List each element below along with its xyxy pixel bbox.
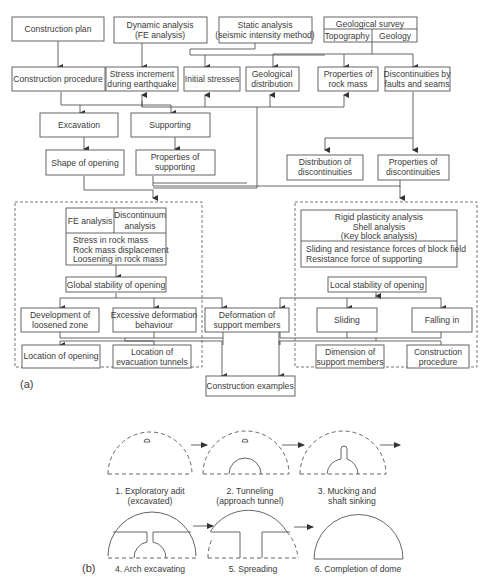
svg-text:Initial stresses: Initial stresses [185,74,239,84]
svg-text:Construction procedure: Construction procedure [13,74,103,84]
svg-text:Loosening in rock mass: Loosening in rock mass [73,254,163,264]
node-right-analysis: Rigid plasticity analysis Shell analysis… [301,210,466,267]
part-a-label: (a) [20,378,33,390]
node-development-loosened: Development of loosened zone [21,308,99,332]
svg-text:(seismic intensity method): (seismic intensity method) [215,30,314,40]
svg-text:Location of: Location of [131,347,174,357]
node-construction-examples: Construction examples [206,376,295,396]
node-stress-increment: Stress increment during earthquake [106,67,178,91]
svg-text:evacuation tunnels: evacuation tunnels [116,357,188,367]
node-sliding: Sliding [317,308,377,332]
node-construction-procedure-2: Construction procedure [407,345,469,368]
node-static-analysis: Static analysis (seismic intensity metho… [215,17,314,43]
step-4-arch-excavating: 4. Arch excavating [108,512,196,574]
node-properties-discontinuities: Properties of discontinuities [378,155,449,180]
node-initial-stresses: Initial stresses [184,67,240,91]
node-deformation-support: Deformation of support members [205,308,289,332]
svg-text:Dimension of: Dimension of [325,347,376,357]
svg-text:Static analysis: Static analysis [238,20,293,30]
svg-text:Excessive deformation: Excessive deformation [111,310,198,320]
svg-text:faults and seams: faults and seams [385,79,450,89]
svg-text:Discontinuum: Discontinuum [114,210,166,220]
svg-text:Rigid plasticity analysis: Rigid plasticity analysis [335,212,423,222]
svg-text:(FE analysis): (FE analysis) [135,30,185,40]
svg-text:Topography: Topography [325,31,371,41]
node-excessive-deformation: Excessive deformation behaviour [111,308,198,332]
svg-text:Stress increment: Stress increment [110,69,175,79]
svg-text:Development of: Development of [30,310,91,320]
svg-text:shaft sinking: shaft sinking [328,496,376,506]
node-geological-distribution: Geological distribution [246,67,299,91]
svg-text:Geology: Geology [379,31,412,41]
flowchart-canvas: Construction plan Dynamic analysis (FE a… [0,0,491,587]
svg-text:Global stability of opening: Global stability of opening [67,280,166,290]
node-left-analysis: FE analysis Discontinuum analysis Stress… [66,208,169,265]
svg-text:Discontinuities by: Discontinuities by [384,69,452,79]
svg-text:4. Arch excavating: 4. Arch excavating [115,564,185,574]
svg-text:3. Mucking and: 3. Mucking and [318,486,377,496]
svg-text:Construction examples: Construction examples [206,381,293,391]
node-properties-supporting: Properties of supporting [136,150,215,175]
svg-text:Construction: Construction [414,347,462,357]
svg-text:procedure: procedure [419,357,458,367]
svg-text:(Key block analysis): (Key block analysis) [341,231,418,241]
node-global-stability: Global stability of opening [66,277,166,292]
svg-text:support members: support members [317,357,384,367]
node-shape-of-opening: Shape of opening [46,150,124,175]
svg-text:discontinuities: discontinuities [298,167,352,177]
svg-text:Supporting: Supporting [149,120,191,130]
svg-text:analysis: analysis [124,221,155,231]
svg-text:5. Spreading: 5. Spreading [229,564,278,574]
svg-text:Falling in: Falling in [425,315,460,325]
node-discontinuities-faults: Discontinuities by faults and seams [384,67,452,91]
svg-text:Local stability of opening: Local stability of opening [330,280,424,290]
svg-text:behaviour: behaviour [135,320,173,330]
svg-text:Construction plan: Construction plan [25,24,92,34]
svg-text:during earthquake: during earthquake [107,79,176,89]
svg-text:Excavation: Excavation [58,120,100,130]
svg-text:Distribution of: Distribution of [299,157,352,167]
svg-text:Geological survey: Geological survey [336,19,405,29]
svg-text:rock mass: rock mass [328,79,367,89]
step-5-spreading: 5. Spreading [208,510,298,574]
node-distribution-discontinuities: Distribution of discontinuities [287,155,363,180]
svg-text:6. Completion of dome: 6. Completion of dome [315,564,402,574]
svg-text:Resistance force of supporting: Resistance force of supporting [306,254,422,264]
svg-text:Properties of: Properties of [389,157,438,167]
svg-text:(excavated): (excavated) [128,496,173,506]
svg-text:1. Exploratory adit: 1. Exploratory adit [115,486,185,496]
node-construction-plan: Construction plan [12,17,104,41]
svg-text:Stress in rock mass: Stress in rock mass [73,235,148,245]
svg-text:Properties of: Properties of [324,69,373,79]
node-geological-survey: Geological survey Topography Geology [324,17,417,42]
svg-text:Sliding: Sliding [334,315,360,325]
step-6-completion: 6. Completion of dome [314,515,403,575]
svg-text:loosened zone: loosened zone [32,320,88,330]
svg-text:distribution: distribution [251,79,293,89]
step-1-exploratory-adit: 1. Exploratory adit (excavated) [108,432,192,506]
svg-text:Sliding and resistance forces: Sliding and resistance forces of block f… [306,244,466,254]
svg-text:Geological: Geological [252,69,293,79]
svg-text:supporting: supporting [155,162,195,172]
node-dimension-support: Dimension of support members [316,345,384,368]
node-excavation: Excavation [40,113,118,137]
node-falling-in: Falling in [412,308,472,332]
svg-text:FE analysis: FE analysis [68,216,112,226]
step-3-mucking: 3. Mucking and shaft sinking [300,431,386,506]
svg-text:Shape of opening: Shape of opening [51,158,119,168]
part-b-label: (b) [82,562,95,574]
svg-text:support members: support members [214,320,281,330]
node-properties-rock-mass: Properties of rock mass [318,67,378,91]
node-dynamic-analysis: Dynamic analysis (FE analysis) [114,17,207,43]
node-construction-procedure: Construction procedure [12,67,105,91]
node-location-opening: Location of opening [22,345,100,368]
node-supporting: Supporting [131,113,210,137]
svg-text:Properties of: Properties of [151,152,200,162]
svg-text:(approach tunnel): (approach tunnel) [216,496,283,506]
svg-text:discontinuities: discontinuities [386,167,440,177]
svg-text:Location of opening: Location of opening [23,351,98,361]
svg-text:Deformation of: Deformation of [219,310,276,320]
node-local-stability: Local stability of opening [328,277,426,292]
step-2-tunneling: 2. Tunneling (approach tunnel) [203,431,289,506]
svg-text:Dynamic analysis: Dynamic analysis [127,20,194,30]
